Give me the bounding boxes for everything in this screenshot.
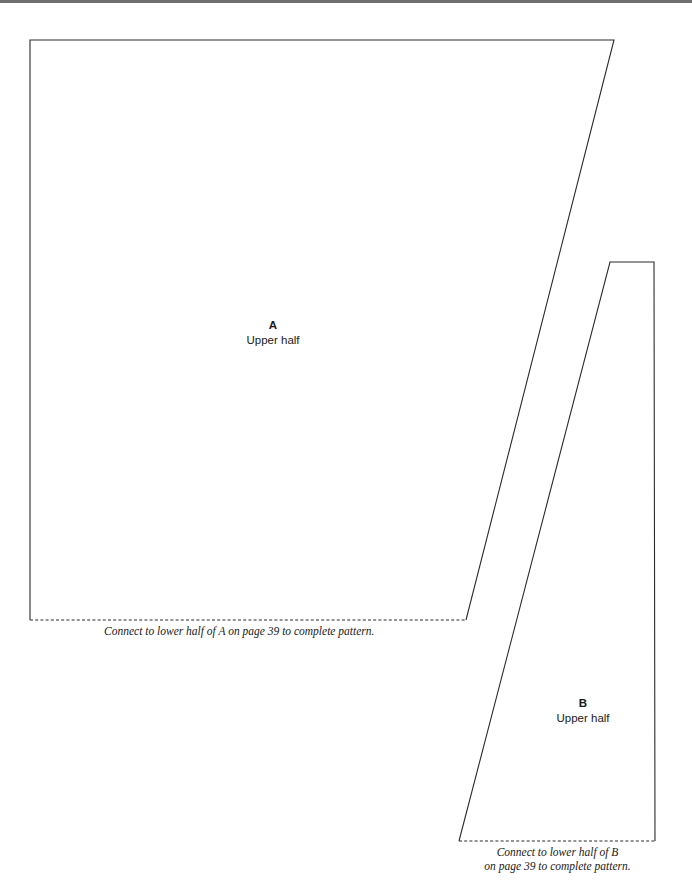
piece-b-label: B Upper half [503, 696, 663, 725]
piece-b-caption-line2: on page 39 to complete pattern. [484, 860, 630, 872]
piece-b-sublabel: Upper half [503, 711, 663, 726]
piece-a-sublabel: Upper half [193, 333, 353, 348]
piece-b-solid-outline [459, 262, 655, 841]
piece-a-caption: Connect to lower half of A on page 39 to… [104, 624, 374, 638]
piece-a-label: A Upper half [193, 318, 353, 347]
piece-a-letter: A [193, 318, 353, 333]
piece-b-caption: Connect to lower half of B on page 39 to… [459, 845, 656, 873]
piece-b-caption-line1: Connect to lower half of B [497, 846, 619, 858]
pattern-outlines [0, 0, 692, 892]
piece-b-letter: B [503, 696, 663, 711]
pattern-page: A Upper half Connect to lower half of A … [0, 0, 692, 892]
